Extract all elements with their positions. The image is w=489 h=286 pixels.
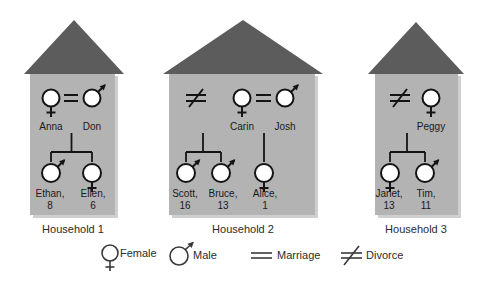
male-symbol (170, 247, 188, 265)
legend-label-female: Female (120, 247, 157, 259)
person-label: Anna (39, 121, 63, 132)
person-age: 1 (262, 200, 268, 211)
person-age: 8 (47, 200, 53, 211)
person-label: Don (83, 121, 101, 132)
person-label: Ethan, (36, 188, 65, 199)
female-symbol (381, 164, 399, 182)
household-label: Household 2 (212, 223, 274, 235)
person-age: 11 (421, 200, 432, 211)
household-label: Household 3 (385, 223, 447, 235)
female-symbol (255, 164, 273, 182)
person-age: 16 (179, 200, 191, 211)
female-symbol (102, 245, 118, 261)
person-label: Janet, (375, 188, 402, 199)
household-label: Household 1 (42, 223, 104, 235)
female-symbol (43, 90, 60, 107)
female-symbol (83, 164, 101, 182)
person-label: Peggy (417, 121, 445, 132)
diagram-canvas: Anna Don Ethan, 8 (0, 0, 489, 286)
person-label: Josh (274, 121, 295, 132)
person-age: 13 (217, 200, 229, 211)
person-label: Tim, (416, 188, 435, 199)
male-symbol (277, 90, 294, 107)
person-label: Scott, (172, 188, 198, 199)
legend-label-male: Male (193, 249, 217, 261)
legend-label-divorce: Divorce (366, 249, 403, 261)
person-label: Carin (230, 121, 254, 132)
person-age: 13 (383, 200, 395, 211)
person-age: 6 (90, 200, 96, 211)
person-label: Alice, (253, 188, 277, 199)
legend-label-marriage: Marriage (277, 249, 320, 261)
person-label: Bruce, (209, 188, 238, 199)
female-symbol (423, 90, 440, 107)
male-symbol (84, 90, 101, 107)
female-symbol (234, 90, 251, 107)
person-label: Ellen, (80, 188, 105, 199)
